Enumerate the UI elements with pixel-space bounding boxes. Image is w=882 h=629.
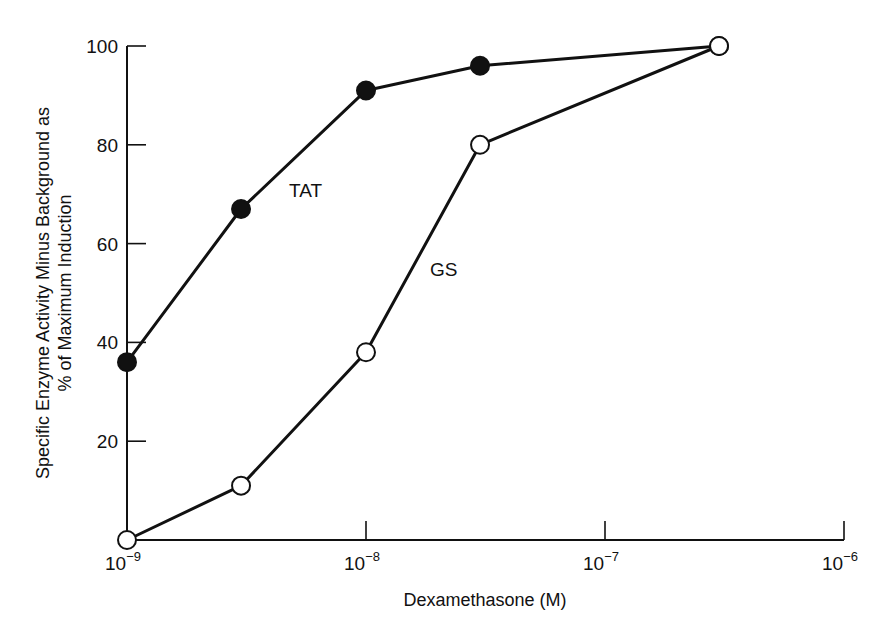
filled-circle-marker-tat bbox=[471, 57, 489, 75]
y-tick-label: 60 bbox=[97, 234, 118, 255]
open-circle-marker-gs bbox=[471, 136, 489, 154]
y-tick-label: 80 bbox=[97, 135, 118, 156]
series-line-tat bbox=[127, 46, 719, 362]
y-tick-label: 20 bbox=[97, 431, 118, 452]
open-circle-marker-gs bbox=[710, 37, 728, 55]
series-line-gs bbox=[127, 46, 719, 540]
axes: 2040608010010−910−810−710−6 bbox=[86, 36, 858, 574]
x-tick-label: 10−9 bbox=[105, 549, 141, 574]
dose-response-chart: 2040608010010−910−810−710−6 Dexamethason… bbox=[0, 0, 882, 629]
x-axis-title: Dexamethasone (M) bbox=[403, 590, 566, 610]
x-tick-label: 10−8 bbox=[344, 549, 380, 574]
x-tick-label: 10−6 bbox=[822, 549, 858, 574]
labels: Dexamethasone (M)Specific Enzyme Activit… bbox=[33, 107, 567, 610]
filled-circle-marker-tat bbox=[118, 353, 136, 371]
open-circle-marker-gs bbox=[357, 343, 375, 361]
open-circle-marker-gs bbox=[118, 531, 136, 549]
open-circle-marker-gs bbox=[232, 477, 250, 495]
filled-circle-marker-tat bbox=[357, 81, 375, 99]
x-tick-label: 10−7 bbox=[583, 549, 619, 574]
series-label-gs: GS bbox=[430, 259, 457, 280]
series-markers bbox=[118, 37, 728, 549]
series-label-tat: TAT bbox=[289, 180, 322, 201]
y-axis-title: Specific Enzyme Activity Minus Backgroun… bbox=[33, 107, 75, 479]
y-tick-label: 40 bbox=[97, 332, 118, 353]
y-tick-label: 100 bbox=[86, 36, 118, 57]
series-lines bbox=[127, 46, 719, 540]
filled-circle-marker-tat bbox=[232, 200, 250, 218]
